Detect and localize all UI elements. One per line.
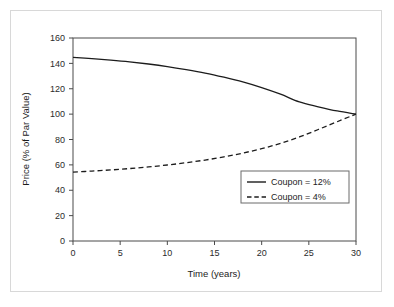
x-axis-ticks: 051015202530 (70, 241, 361, 258)
y-tick-label: 20 (55, 211, 65, 221)
x-axis-title: Time (years) (188, 268, 241, 279)
y-tick-label: 0 (60, 236, 65, 246)
y-axis-title: Price (% of Par Value) (20, 92, 31, 185)
y-tick-label: 140 (50, 59, 65, 69)
legend-label-1: Coupon = 4% (271, 192, 326, 202)
figure-card: 020406080100120140160 051015202530 Time … (10, 10, 382, 292)
y-tick-label: 160 (50, 33, 65, 43)
x-tick-label: 30 (351, 248, 361, 258)
x-tick-label: 20 (257, 248, 267, 258)
legend-label-0: Coupon = 12% (271, 177, 331, 187)
x-tick-label: 0 (70, 248, 75, 258)
x-tick-label: 5 (118, 248, 123, 258)
plot-area-border (73, 38, 356, 241)
y-tick-label: 80 (55, 135, 65, 145)
chart-legend: Coupon = 12%Coupon = 4% (241, 171, 349, 203)
x-tick-label: 10 (162, 248, 172, 258)
y-tick-label: 120 (50, 84, 65, 94)
plot-frame (73, 38, 356, 241)
y-tick-label: 100 (50, 109, 65, 119)
x-tick-label: 15 (209, 248, 219, 258)
y-axis-ticks: 020406080100120140160 (50, 33, 73, 246)
y-tick-label: 40 (55, 185, 65, 195)
x-tick-label: 25 (304, 248, 314, 258)
price-vs-time-line-chart: 020406080100120140160 051015202530 Time … (11, 11, 383, 293)
y-tick-label: 60 (55, 160, 65, 170)
